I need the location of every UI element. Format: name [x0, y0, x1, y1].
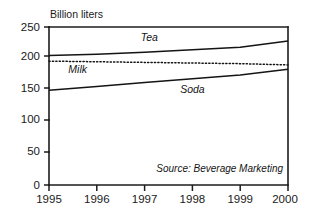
- y-tick-label-50: 50: [27, 145, 40, 157]
- series-label-milk: Milk: [68, 63, 87, 75]
- line-chart: 250 200 150 100 50 0 Billion liters: [0, 0, 310, 222]
- x-tick-label-1995: 1995: [36, 193, 62, 205]
- series-label-tea: Tea: [141, 31, 158, 43]
- chart-container: 250 200 150 100 50 0 Billion liters: [0, 0, 310, 222]
- x-axis-ticks: [49, 185, 288, 191]
- x-tick-label-1999: 1999: [227, 193, 253, 205]
- x-tick-label-1997: 1997: [132, 193, 158, 205]
- y-tick-label-100: 100: [21, 113, 40, 125]
- y-axis-tick-labels: 250 200 150 100 50 0: [21, 21, 40, 191]
- x-tick-label-1996: 1996: [84, 193, 110, 205]
- series-line-tea: [49, 41, 288, 56]
- y-tick-label-150: 150: [21, 82, 40, 94]
- unit-label: Billion liters: [50, 8, 103, 20]
- x-tick-label-1998: 1998: [180, 193, 206, 205]
- y-tick-label-200: 200: [21, 50, 40, 62]
- x-axis-tick-labels: 1995 1996 1997 1998 1999 2000: [36, 193, 298, 205]
- y-tick-label-0: 0: [34, 179, 40, 191]
- series-label-soda: Soda: [180, 83, 205, 95]
- y-tick-label-250: 250: [21, 21, 40, 33]
- x-tick-label-2000: 2000: [272, 193, 298, 205]
- source-note: Source: Beverage Marketing: [156, 163, 283, 174]
